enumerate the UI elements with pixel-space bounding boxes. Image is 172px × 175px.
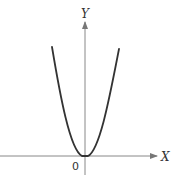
x-axis-label: X (160, 150, 170, 164)
origin-label: 0 (72, 160, 79, 173)
parabola-diagram: Y X 0 (0, 0, 172, 175)
y-axis-label: Y (81, 7, 90, 21)
